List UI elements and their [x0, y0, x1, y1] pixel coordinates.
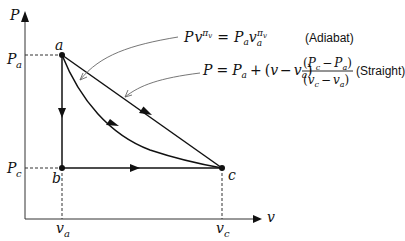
point-c [219, 165, 225, 171]
point-a-label: a [55, 37, 63, 53]
pv-diagram: P v P a P c v a v c a b [0, 0, 405, 241]
arrow-adiabat-icon [106, 119, 119, 126]
point-c-label: c [228, 167, 236, 183]
straight-tag: (Straight) [356, 64, 405, 78]
fraction-denominator: (vc−va) [303, 73, 349, 89]
point-b-label: b [52, 170, 61, 186]
path-b-to-c [62, 164, 222, 172]
svg-text:v: v [216, 220, 224, 236]
svg-text:a: a [16, 59, 22, 70]
straight-equation: P=Pa+(v−va) (Pc−Pa) (vc−va) (Straight) [202, 56, 405, 89]
svg-text:P=Pa+(v−va): P=Pa+(v−va) [202, 62, 313, 80]
leader-straight [125, 73, 200, 97]
y-axis [21, 11, 29, 219]
adiabat-tag: (Adiabat) [305, 31, 354, 45]
fraction-numerator: (Pc−Pa) [303, 56, 352, 72]
arrow-straight-icon [139, 107, 152, 116]
path-a-to-b [58, 55, 66, 168]
svg-text:c: c [224, 228, 230, 239]
svg-text:a: a [64, 228, 70, 239]
Pa-tick-label: P a [6, 51, 22, 70]
x-axis-label: v [267, 209, 275, 225]
svg-text:v: v [56, 220, 64, 236]
va-tick-label: v a [56, 220, 70, 239]
svg-text:c: c [16, 168, 22, 179]
svg-text:Pvπv=Pavaπv: Pvπv=Pavaπv [183, 28, 267, 48]
arrow-down-icon [58, 108, 66, 118]
adiabat-equation: Pvπv=Pavaπv (Adiabat) [183, 28, 354, 48]
vc-tick-label: v c [216, 220, 230, 239]
leader-adiabat [80, 37, 178, 80]
Pc-tick-label: P c [6, 160, 22, 179]
y-axis-label: P [9, 7, 20, 23]
arrow-right-icon [130, 164, 140, 172]
path-straight [62, 55, 222, 168]
x-axis-arrow-icon [253, 215, 262, 223]
y-axis-arrow-icon [21, 11, 29, 22]
